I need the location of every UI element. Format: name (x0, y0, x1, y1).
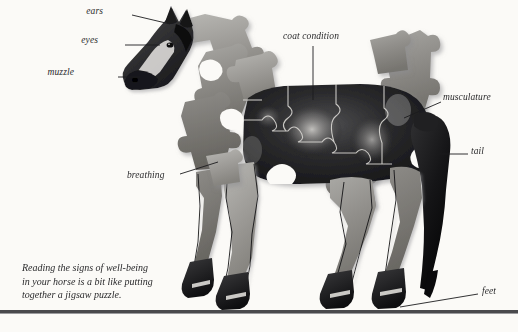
hoof-hindleg-near (320, 270, 354, 309)
label-musculature: musculature (443, 92, 491, 102)
label-ears: ears (47, 6, 103, 16)
coat-highlight-5 (242, 136, 262, 164)
label-coat-condition: coat condition (283, 31, 339, 41)
label-breathing: breathing (127, 170, 165, 180)
detached-piece-top-right (370, 30, 411, 74)
leader-feet (400, 294, 478, 307)
hindleg-far (382, 167, 422, 284)
coat-highlight-4 (385, 94, 411, 126)
caption-line-3: together a jigsaw puzzle. (22, 288, 227, 302)
label-tail: tail (471, 146, 484, 156)
tail-dock (414, 112, 439, 131)
leader-ears (132, 15, 170, 24)
eye-glint (168, 43, 170, 45)
caption-line-2: in your horse is a bit like putting (22, 275, 227, 289)
caption-line-1: Reading the signs of well-being (22, 261, 227, 275)
illustration-page: ears eyes muzzle coat condition musculat… (0, 0, 518, 332)
nostril (132, 78, 138, 82)
coat-highlight-2 (350, 118, 394, 166)
label-eyes: eyes (42, 35, 98, 45)
eye (167, 42, 174, 47)
coat-highlight-1 (282, 106, 342, 158)
label-muzzle: muzzle (18, 67, 74, 77)
coat-highlight-3 (254, 106, 282, 130)
hindleg-near (330, 177, 376, 284)
ground-rule-shadow (0, 313, 518, 314)
caption: Reading the signs of well-being in your … (22, 261, 227, 302)
label-feet: feet (482, 286, 496, 296)
